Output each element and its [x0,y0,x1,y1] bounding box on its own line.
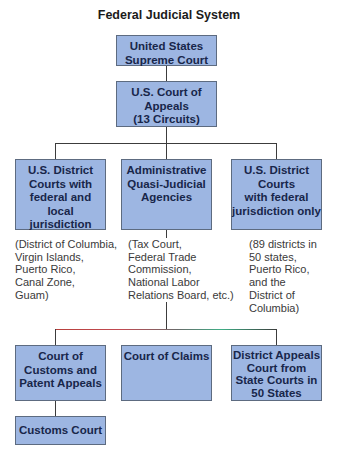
connector-to-customs-patent [55,329,56,345]
connector-to-district-fed-local [55,143,56,159]
connector-to-customs-court [55,400,56,416]
connector-supreme-to-appeals [166,66,167,81]
node-administrative-agencies: Administrative Quasi-Judicial Agencies [121,159,212,230]
node-court-of-claims: Court of Claims [121,345,212,401]
connector-tier3-horizontal [55,329,277,330]
diagram-title: Federal Judicial System [0,8,338,22]
connector-tier2-horizontal [55,143,277,144]
node-customs-patent-appeals: Court of Customs and Patent Appeals [15,345,106,401]
node-district-appeals-state-courts: District Appeals Court from State Courts… [231,345,322,401]
note-administrative-agencies: (Tax Court, Federal Trade Commission, Na… [128,238,234,302]
note-district-courts-federal-local: (District of Columbia, Virgin Islands, P… [15,238,117,302]
node-district-courts-federal-only: U.S. District Courts with federal jurisd… [231,159,322,230]
node-customs-court: Customs Court [15,416,106,445]
note-district-courts-federal-only: (89 districts in 50 states, Puerto Rico,… [249,238,317,314]
connector-to-district-fed-only [276,143,277,159]
node-court-of-appeals: U.S. Court of Appeals (13 Circuits) [116,81,217,127]
node-supreme-court: United States Supreme Court [116,35,217,66]
node-district-courts-federal-local: U.S. District Courts with federal and lo… [15,159,106,230]
connector-to-district-appeals [276,329,277,345]
